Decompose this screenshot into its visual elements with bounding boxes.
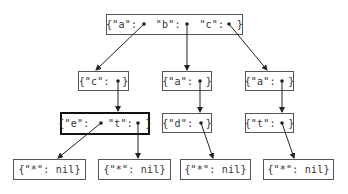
edge-root-c-to-ca [229,24,267,70]
pointer-dot-icon [185,22,189,26]
pointer-dot-icon [280,121,284,125]
pointer-dot-icon [116,79,120,83]
edge-cet-e-to-leaf1 [58,123,101,158]
edge-root-a-to-c [96,24,144,70]
edge-bad-d-to-leaf3 [201,123,213,158]
pointer-dot-icon [227,22,231,26]
edge-layer [0,0,348,194]
trie-diagram: {"a": "b": "c": }{"c": }{"a": }{"a": }{"… [0,0,348,194]
pointer-dot-icon [142,22,146,26]
pointer-dot-icon [99,121,103,125]
pointer-dot-icon [199,121,203,125]
pointer-dot-icon [198,79,202,83]
pointer-dot-icon [136,121,140,125]
edge-cat-t-to-leaf4 [282,123,294,158]
pointer-dot-icon [280,79,284,83]
